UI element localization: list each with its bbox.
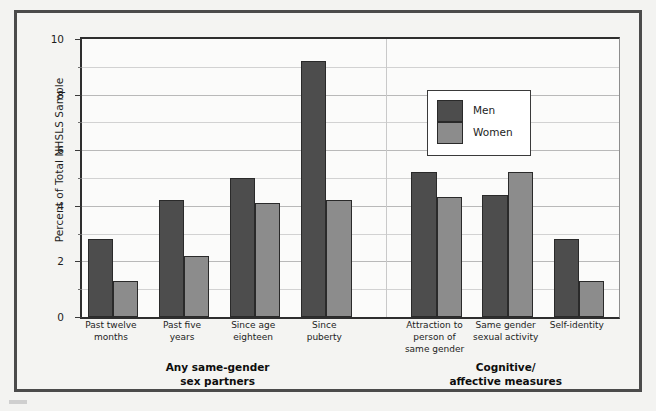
y-tick-major: 0 bbox=[75, 317, 82, 318]
x-category-label-line: puberty bbox=[280, 331, 368, 343]
bar-men-4 bbox=[411, 172, 436, 317]
x-category-label-3: Sincepuberty bbox=[280, 319, 368, 343]
y-tick-major: 6 bbox=[75, 150, 82, 151]
x-group-label-0: Any same-gendersex partners bbox=[113, 360, 323, 388]
legend-label-men: Men bbox=[473, 104, 495, 116]
x-category-label-6: Self-identity bbox=[533, 319, 621, 331]
legend-swatch-women bbox=[437, 122, 463, 144]
bar-men-2 bbox=[230, 178, 255, 317]
bar-men-3 bbox=[301, 61, 326, 317]
plot-wrapper: Percent of Total NHSLS Sample 0246810 Me… bbox=[17, 13, 645, 395]
y-axis-label: Percent of Total NHSLS Sample bbox=[53, 35, 65, 285]
x-category-label-line: Self-identity bbox=[533, 319, 621, 331]
bar-men-5 bbox=[482, 195, 507, 317]
x-group-label-line: Cognitive/ bbox=[401, 360, 611, 374]
x-axis-category-labels: Past twelvemonthsPast fiveyearsSince age… bbox=[80, 319, 617, 363]
x-category-label-line: same gender bbox=[390, 343, 478, 355]
figure-container: Percent of Total NHSLS Sample 0246810 Me… bbox=[0, 0, 656, 411]
bar-women-6 bbox=[579, 281, 604, 317]
bar-men-6 bbox=[554, 239, 579, 317]
bars-group bbox=[82, 39, 619, 317]
bar-women-4 bbox=[437, 197, 462, 317]
x-group-label-line: sex partners bbox=[113, 374, 323, 388]
bar-men-0 bbox=[88, 239, 113, 317]
bar-men-1 bbox=[159, 200, 184, 317]
x-axis-group-labels: Any same-gendersex partnersCognitive/aff… bbox=[80, 360, 617, 396]
scan-artifact bbox=[9, 400, 27, 404]
x-group-label-1: Cognitive/affective measures bbox=[401, 360, 611, 388]
y-tick-label: 8 bbox=[57, 89, 64, 101]
y-tick-label: 2 bbox=[57, 255, 64, 267]
bar-women-3 bbox=[326, 200, 351, 317]
x-group-label-line: affective measures bbox=[401, 374, 611, 388]
y-tick-label: 6 bbox=[57, 144, 64, 156]
x-category-label-line: sexual activity bbox=[462, 331, 550, 343]
y-tick-major: 10 bbox=[75, 39, 82, 40]
chart-frame: Percent of Total NHSLS Sample 0246810 Me… bbox=[14, 10, 642, 392]
y-tick-label: 4 bbox=[57, 200, 64, 212]
bar-women-0 bbox=[113, 281, 138, 317]
plot-area: 0246810 Men Women bbox=[80, 37, 620, 319]
x-category-label-line: Since bbox=[280, 319, 368, 331]
bar-women-1 bbox=[184, 256, 209, 317]
y-tick-label: 10 bbox=[51, 33, 64, 45]
y-tick-major: 2 bbox=[75, 261, 82, 262]
chart-legend: Men Women bbox=[427, 90, 531, 156]
legend-swatch-men bbox=[437, 100, 463, 122]
y-tick-major: 4 bbox=[75, 206, 82, 207]
bar-women-5 bbox=[508, 172, 533, 317]
y-tick-major: 8 bbox=[75, 95, 82, 96]
bar-women-2 bbox=[255, 203, 280, 317]
x-group-label-line: Any same-gender bbox=[113, 360, 323, 374]
y-tick-label: 0 bbox=[57, 311, 64, 323]
legend-label-women: Women bbox=[473, 126, 513, 138]
